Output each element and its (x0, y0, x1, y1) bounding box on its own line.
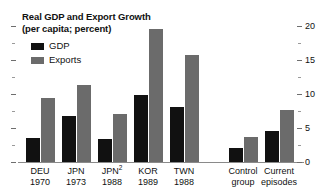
chart-container: Real GDP and Export Growth (per capita; … (0, 0, 331, 196)
y-minor-tick-left-2.5 (12, 145, 15, 146)
bar-exports-5 (244, 137, 258, 162)
bar-gdp-2 (98, 139, 112, 162)
y-tick-right-0 (297, 162, 302, 163)
y-tick-label-10: 10 (305, 90, 315, 99)
x-axis-label-line1-4: TWN (154, 166, 214, 177)
y-minor-tick-right-7.5 (298, 111, 301, 112)
y-minor-tick-right-2.5 (298, 145, 301, 146)
y-tick-left-0 (11, 162, 16, 163)
y-tick-left-20 (11, 26, 16, 27)
x-axis-label-4: TWN1988 (154, 166, 214, 188)
bar-gdp-3 (134, 95, 148, 162)
x-axis-label-6: Currentepisodes (249, 166, 309, 188)
y-minor-tick-right-17.5 (298, 43, 301, 44)
x-axis-label-line2-6: episodes (249, 177, 309, 188)
x-axis-label-line1-6: Current (249, 166, 309, 177)
y-minor-tick-right-12.5 (298, 77, 301, 78)
y-tick-label-15: 15 (305, 56, 315, 65)
bar-exports-3 (149, 29, 163, 162)
bar-exports-0 (41, 98, 55, 162)
y-tick-label-20: 20 (305, 22, 315, 31)
bar-exports-4 (185, 55, 199, 162)
y-tick-left-10 (11, 94, 16, 95)
y-tick-right-10 (297, 94, 302, 95)
bar-exports-2 (113, 114, 127, 162)
bar-gdp-5 (229, 148, 243, 162)
bar-gdp-0 (26, 138, 40, 162)
y-tick-right-20 (297, 26, 302, 27)
y-tick-left-5 (11, 128, 16, 129)
y-tick-right-5 (297, 128, 302, 129)
bar-gdp-4 (170, 107, 184, 162)
y-tick-left-15 (11, 60, 16, 61)
bar-gdp-1 (62, 116, 76, 162)
x-axis-label-line2-4: 1988 (154, 177, 214, 188)
y-tick-label-5: 5 (305, 124, 310, 133)
x-axis-line (18, 162, 304, 163)
y-minor-tick-left-12.5 (12, 77, 15, 78)
bar-gdp-6 (265, 131, 279, 162)
bar-exports-1 (77, 85, 91, 162)
bar-exports-6 (280, 110, 294, 162)
plot-area (18, 18, 296, 162)
y-tick-right-15 (297, 60, 302, 61)
y-minor-tick-left-17.5 (12, 43, 15, 44)
y-minor-tick-left-7.5 (12, 111, 15, 112)
